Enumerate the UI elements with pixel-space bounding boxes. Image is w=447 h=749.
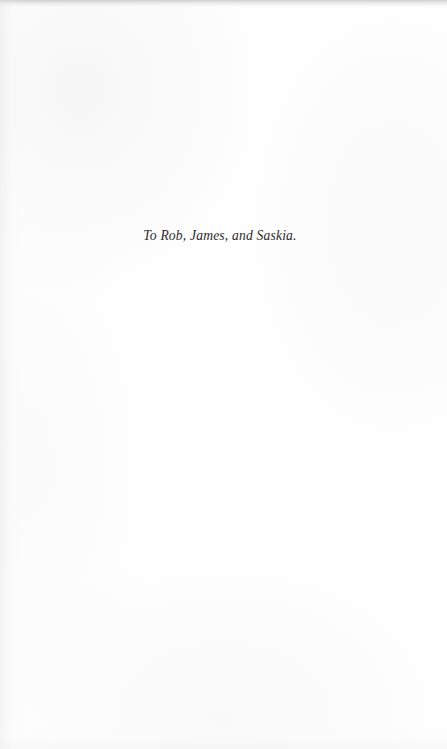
scan-shadow-bottom-edge xyxy=(0,727,447,749)
scan-shadow-top-edge xyxy=(0,0,447,9)
book-page: To Rob, James, and Saskia. xyxy=(0,0,447,749)
dedication-text: To Rob, James, and Saskia. xyxy=(143,227,296,245)
dedication-block: To Rob, James, and Saskia. xyxy=(0,226,447,245)
scan-shadow-left-edge xyxy=(0,0,26,749)
